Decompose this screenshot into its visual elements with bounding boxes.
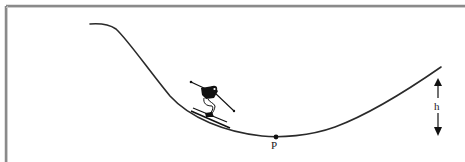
height-label: h — [434, 100, 440, 113]
skier-icon — [190, 81, 236, 128]
point-p-label: P — [271, 140, 277, 151]
valley-track — [90, 24, 441, 137]
diagram-frame: P h — [0, 0, 465, 162]
frame-border — [6, 6, 465, 162]
